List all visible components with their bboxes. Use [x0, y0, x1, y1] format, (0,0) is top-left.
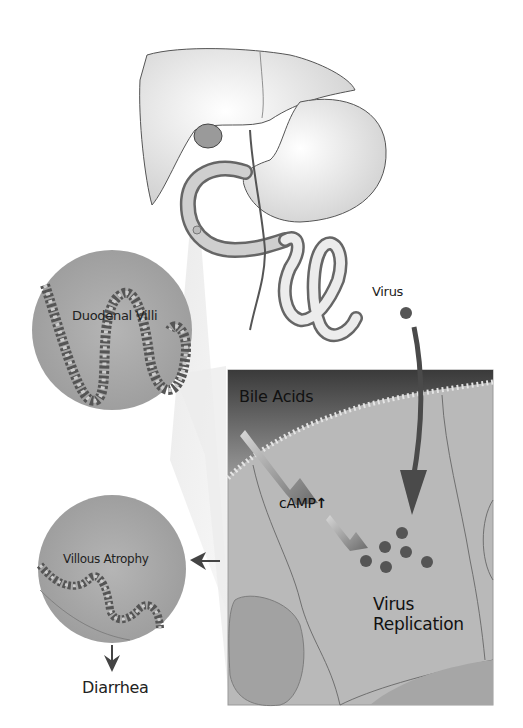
enterocyte-panel	[228, 370, 493, 706]
diarrhea-arrow	[104, 645, 120, 672]
label-virus-replication-1: Virus	[373, 594, 414, 614]
label-virus: Virus	[372, 284, 403, 299]
diagram-canvas: Virus Duodenal Villi Bile Acids cAMP↑ Vi…	[0, 0, 523, 728]
virus-particle	[400, 546, 412, 558]
label-diarrhea: Diarrhea	[82, 678, 149, 697]
gallbladder	[194, 124, 222, 148]
villous-atrophy-circle	[38, 495, 186, 643]
up-arrow-icon: ↑	[316, 495, 327, 511]
label-camp: cAMP↑	[279, 495, 327, 511]
virus-particle	[360, 555, 372, 567]
virus-particle-icon	[400, 307, 412, 319]
virus-particle	[380, 561, 392, 573]
duodenal-villi-circle	[32, 250, 192, 410]
virus-particle	[421, 556, 433, 568]
label-bile-acids: Bile Acids	[239, 387, 313, 406]
label-villous-atrophy: Villous Atrophy	[63, 552, 149, 566]
label-duodenal-villi: Duodenal Villi	[72, 308, 157, 323]
label-virus-replication-2: Replication	[373, 614, 464, 634]
camp-text: cAMP	[279, 495, 316, 511]
virus-particle	[379, 541, 391, 553]
virus-particle	[396, 527, 408, 539]
